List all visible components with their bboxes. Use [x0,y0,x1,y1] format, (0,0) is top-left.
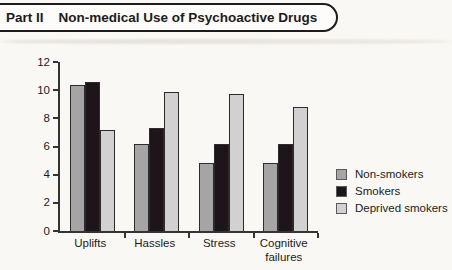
bar-deprived_smokers [164,92,179,231]
legend-item: Smokers [336,185,448,197]
legend-item: Deprived smokers [336,202,448,214]
x-tick [317,233,319,238]
y-tick-label: 4 [24,169,50,181]
x-category-label: Uplifts [58,237,123,251]
y-tick-label: 0 [24,225,50,237]
bar-smokers [214,144,229,231]
legend: Non-smokersSmokersDeprived smokers [336,168,448,219]
plot-area: 024681012 [58,62,318,233]
x-category-label: Stress [187,237,252,251]
x-category-label: Hassles [123,237,188,251]
figure-title: Non-medical Use of Psychoactive Drugs [59,10,318,25]
x-category-label: Cognitive failures [252,237,317,265]
bar-deprived_smokers [229,94,244,231]
section-header-pill: Part II Non-medical Use of Psychoactive … [0,3,338,32]
y-tick [53,174,58,176]
bar-smokers [278,144,293,231]
bar-group-cognitive-failures [254,62,319,231]
legend-label: Smokers [355,185,400,197]
bar-group-uplifts [60,62,125,231]
y-tick [53,117,58,119]
legend-swatch-deprived_smokers [336,203,347,214]
bar-non_smokers [134,144,149,231]
bar-deprived_smokers [293,107,308,231]
bar-non_smokers [263,163,278,231]
y-tick [53,202,58,204]
legend-item: Non-smokers [336,168,448,180]
y-tick-label: 10 [24,84,50,96]
y-tick-label: 6 [24,141,50,153]
legend-swatch-non_smokers [336,169,347,180]
part-label: Part II [6,10,44,25]
y-tick-label: 2 [24,197,50,209]
legend-label: Non-smokers [355,168,423,180]
bar-smokers [85,82,100,231]
bar-group-hassles [125,62,190,231]
bar-smokers [149,128,164,231]
y-tick-label: 8 [24,113,50,125]
y-tick [53,61,58,63]
legend-label: Deprived smokers [355,202,448,214]
y-tick [53,230,58,232]
scan-artifact [0,39,452,44]
bar-non_smokers [199,163,214,231]
bar-non_smokers [70,85,85,231]
bar-group-stress [189,62,254,231]
y-tick [53,89,58,91]
legend-swatch-smokers [336,186,347,197]
y-tick-label: 12 [24,56,50,68]
y-tick [53,146,58,148]
bar-deprived_smokers [100,130,115,231]
